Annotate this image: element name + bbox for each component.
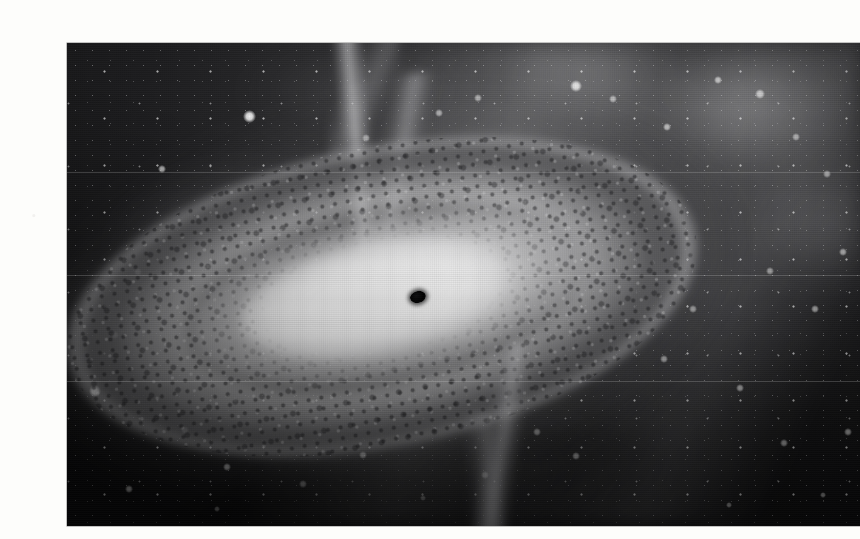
- star: [474, 94, 481, 101]
- star: [726, 502, 733, 509]
- star: [820, 492, 827, 499]
- scan-seam: [67, 381, 860, 382]
- star: [780, 439, 787, 446]
- star: [844, 428, 852, 436]
- star: [839, 248, 847, 256]
- jet-base-glow: [385, 239, 525, 349]
- scan-seam: [67, 172, 860, 173]
- star: [736, 384, 744, 392]
- black-hole-illustration: [67, 43, 860, 526]
- star: [792, 133, 800, 141]
- star: [243, 110, 256, 123]
- star: [570, 80, 581, 91]
- star: [811, 305, 819, 313]
- scan-seam: [67, 275, 860, 276]
- star: [714, 76, 723, 85]
- star: [766, 267, 773, 274]
- star: [755, 89, 764, 98]
